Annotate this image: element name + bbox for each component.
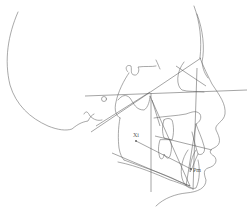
clinoid	[156, 60, 160, 69]
a-pog-line	[186, 124, 196, 186]
cephalometric-tracing: Xi Pm	[0, 0, 247, 219]
sella-turcica	[126, 65, 156, 75]
porion	[102, 97, 107, 102]
mastoid-curve	[84, 112, 102, 121]
soft-tissue-profile	[156, 58, 225, 206]
pt-gn-line	[152, 100, 160, 126]
landmark-pm-point	[190, 168, 192, 170]
sn-line-2	[96, 92, 150, 126]
ramus-posterior	[118, 118, 124, 160]
n-pog-line	[150, 96, 190, 186]
palate	[154, 112, 201, 124]
orbit-outline	[178, 62, 204, 92]
landmark-xi-point	[135, 140, 137, 142]
nasion-line	[176, 66, 206, 86]
frankfort-horizontal-line	[85, 90, 247, 96]
landmark-pm-label: Pm	[193, 167, 201, 173]
cranium-outline	[7, 12, 94, 130]
xi-pm-line	[136, 141, 191, 169]
landmark-xi-label: Xi	[133, 132, 139, 138]
upper-incisor	[192, 124, 205, 155]
frontal-bone-outer	[194, 6, 201, 58]
